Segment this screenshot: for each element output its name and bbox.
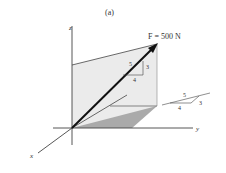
x-axis-label: x xyxy=(29,152,34,160)
y-axis-label: y xyxy=(195,125,200,133)
force-diagram: (a) F = 500 N z y x 5 3 4 5 3 4 xyxy=(0,0,226,173)
figure-label: (a) xyxy=(105,8,114,17)
x-axis xyxy=(38,128,72,153)
vertical-hyp-label: 5 xyxy=(129,61,132,67)
force-label: F = 500 N xyxy=(148,32,181,41)
horizontal-hyp-label: 5 xyxy=(183,92,186,98)
horizontal-base-label: 4 xyxy=(178,105,181,111)
horizontal-side-label: 3 xyxy=(199,100,202,106)
diagram-canvas: (a) F = 500 N z y x 5 3 4 5 3 4 xyxy=(0,0,226,173)
vertical-side-label: 3 xyxy=(146,64,149,70)
z-axis-label: z xyxy=(68,24,72,32)
vertical-base-label: 4 xyxy=(133,77,136,83)
